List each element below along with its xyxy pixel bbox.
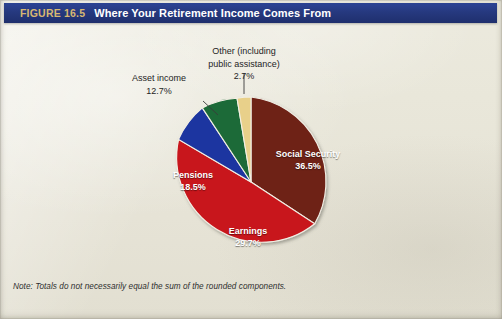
figure-source [13, 310, 433, 319]
slice-label-asset-income-text: Asset income [113, 72, 205, 85]
figure-number-label: FIGURE 16.5 [20, 7, 85, 19]
slice-value-social-security: 36.5% [265, 160, 351, 172]
slice-label-pensions-text: Pensions [160, 169, 226, 181]
slice-label-social-security-text: Social Security [265, 148, 351, 160]
slice-label-earnings: Earnings 29.7% [211, 225, 285, 249]
slice-label-other-line2: public assistance) [176, 58, 312, 71]
slice-label-other-line1: Other (including [176, 45, 312, 58]
pie-chart: Other (including public assistance) 2.7%… [0, 23, 502, 275]
slice-label-asset-income: Asset income 12.7% [113, 72, 205, 97]
slice-value-asset-income: 12.7% [113, 85, 205, 98]
figure-header-bar: FIGURE 16.5 Where Your Retirement Income… [4, 3, 497, 23]
figure-page: FIGURE 16.5 Where Your Retirement Income… [0, 0, 502, 319]
slice-value-pensions: 18.5% [160, 181, 226, 193]
figure-title: Where Your Retirement Income Comes From [94, 7, 331, 19]
figure-note: Note: Totals do not necessarily equal th… [13, 282, 286, 291]
slice-label-social-security: Social Security 36.5% [265, 148, 351, 172]
slice-label-pensions: Pensions 18.5% [160, 169, 226, 193]
slice-label-earnings-text: Earnings [211, 225, 285, 237]
slice-value-earnings: 29.7% [211, 237, 285, 249]
